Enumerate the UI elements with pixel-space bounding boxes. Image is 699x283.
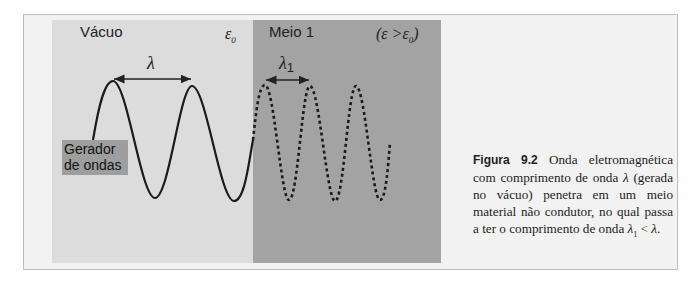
figure-caption: Figura 9.2 Onda eletromagnética com comp… bbox=[473, 151, 673, 243]
medium-wave bbox=[253, 85, 390, 201]
wave-generator-box: Gerador de ondas bbox=[62, 140, 128, 175]
figure-number: Figura 9.2 bbox=[473, 153, 538, 167]
generator-label-line1: Gerador bbox=[64, 141, 128, 157]
generator-label-line2: de ondas bbox=[64, 157, 128, 173]
